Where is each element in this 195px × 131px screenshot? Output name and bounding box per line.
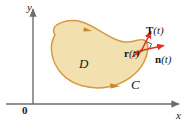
x-axis-label: x xyxy=(176,110,181,121)
normal-vector-argument: (t) xyxy=(161,53,171,65)
vector-calculus-diagram: y x 0 D C T(t) r(t) n(t) xyxy=(0,0,195,131)
region-label-d: D xyxy=(79,57,88,70)
position-vector-label: r(t) xyxy=(124,48,139,59)
tangent-vector-label: T(t) xyxy=(146,25,164,36)
position-vector-argument: (t) xyxy=(129,47,139,59)
y-axis-label: y xyxy=(27,2,32,13)
curve-label-c: C xyxy=(131,78,140,91)
tangent-vector-argument: (t) xyxy=(153,24,163,36)
normal-vector-label: n(t) xyxy=(155,54,172,65)
curve-point xyxy=(140,49,143,52)
diagram-canvas xyxy=(0,0,195,131)
origin-label: 0 xyxy=(22,105,28,116)
